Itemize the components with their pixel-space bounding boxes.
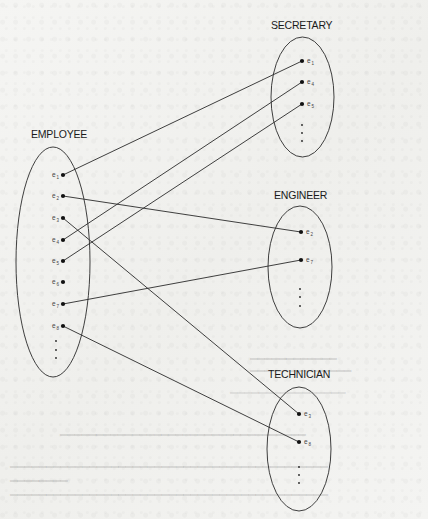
entity-subscript: 1 (57, 175, 60, 180)
employee-entity-e6: e 6 (52, 278, 65, 287)
entity-label: e (306, 256, 310, 263)
entity-label: e (52, 300, 56, 307)
secretary-ellipse (271, 37, 334, 157)
diagram-svg: EMPLOYEE e 1 e 2 e 3 e 4 (0, 0, 428, 519)
engineer-ellipse (268, 206, 332, 328)
entity-dot (61, 259, 65, 263)
entity-subscript: 6 (57, 282, 60, 287)
entity-dot (61, 302, 65, 306)
entity-subscript: 4 (57, 240, 60, 245)
technician-set-label: TECHNICIAN (268, 368, 330, 380)
engineer-set-label: ENGINEER (274, 189, 328, 201)
entity-subscript: 8 (57, 326, 60, 331)
figure-canvas: ━━━━━━━━━━━━ ━━━━━━━━━━━━━━ ━━━━━━━━━━━━… (0, 0, 428, 519)
link-e1-secretary (63, 61, 302, 175)
entity-subscript: 3 (309, 414, 312, 419)
technician-entity-e8: e 8 (297, 438, 312, 447)
entity-label: e (52, 322, 56, 329)
links (63, 61, 302, 442)
employee-set: EMPLOYEE e 1 e 2 e 3 e 4 (16, 128, 90, 377)
entity-dot (299, 258, 303, 262)
link-e8-technician (63, 326, 299, 442)
secretary-entity-e4: e 4 (300, 78, 315, 87)
entity-subscript: 7 (57, 304, 60, 309)
secretary-ellipsis-dots (301, 124, 303, 142)
entity-dot (297, 440, 301, 444)
technician-ellipsis-dots (298, 466, 300, 484)
link-e3-technician (63, 218, 299, 414)
entity-label: e (52, 171, 56, 178)
employee-entity-e7: e 7 (52, 300, 65, 309)
link-e7-engineer (63, 260, 301, 304)
entity-label: e (52, 278, 56, 285)
entity-subscript: 7 (311, 260, 314, 265)
entity-dot (61, 238, 65, 242)
entity-label: e (52, 257, 56, 264)
technician-set: TECHNICIAN e 3 e 8 (267, 368, 331, 511)
entity-dot (299, 230, 303, 234)
secretary-entity-e5: e 5 (300, 100, 315, 109)
engineer-ellipsis-dots (299, 288, 301, 307)
technician-ellipse (267, 387, 331, 511)
entity-label: e (304, 410, 308, 417)
link-e5-secretary (63, 104, 302, 261)
entity-dot (297, 412, 301, 416)
link-e2-engineer (63, 196, 301, 232)
entity-dot (61, 173, 65, 177)
secretary-entity-e1: e 1 (300, 57, 315, 66)
link-e4-secretary (63, 82, 302, 240)
engineer-entity-e7: e 7 (299, 256, 314, 265)
employee-entity-e5: e 5 (52, 257, 65, 266)
entity-subscript: 1 (312, 61, 315, 66)
employee-entity-e2: e 2 (52, 192, 65, 201)
employee-entity-e3: e 3 (52, 214, 65, 223)
entity-subscript: 4 (312, 82, 315, 87)
entity-label: e (52, 236, 56, 243)
entity-subscript: 5 (57, 261, 60, 266)
technician-entity-e3: e 3 (297, 410, 312, 419)
engineer-set: ENGINEER e 2 e 7 (268, 189, 332, 328)
entity-label: e (52, 192, 56, 199)
entity-dot (300, 59, 304, 63)
entity-label: e (307, 78, 311, 85)
employee-entity-e1: e 1 (52, 171, 65, 180)
entity-subscript: 2 (311, 232, 314, 237)
entity-dot (61, 280, 65, 284)
secretary-set: SECRETARY e 1 e 4 e 5 (271, 19, 334, 157)
entity-subscript: 5 (312, 104, 315, 109)
entity-dot (300, 102, 304, 106)
employee-ellipsis-dots (55, 340, 57, 359)
entity-dot (300, 80, 304, 84)
entity-label: e (52, 214, 56, 221)
entity-label: e (307, 100, 311, 107)
entity-dot (61, 194, 65, 198)
entity-label: e (304, 438, 308, 445)
entity-subscript: 2 (57, 196, 60, 201)
entity-label: e (307, 57, 311, 64)
entity-subscript: 3 (57, 218, 60, 223)
entity-dot (61, 216, 65, 220)
engineer-entity-e2: e 2 (299, 228, 314, 237)
employee-entity-e4: e 4 (52, 236, 65, 245)
employee-entity-e8: e 8 (52, 322, 65, 331)
secretary-set-label: SECRETARY (271, 19, 333, 31)
entity-label: e (306, 228, 310, 235)
employee-set-label: EMPLOYEE (31, 128, 87, 140)
entity-dot (61, 324, 65, 328)
entity-subscript: 8 (309, 442, 312, 447)
